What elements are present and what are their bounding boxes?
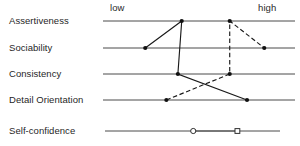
data-point-dashed-detail-orientation	[164, 98, 168, 102]
data-point-dashed-assertiveness	[228, 19, 232, 23]
self-confidence-open-circle-marker	[191, 128, 196, 133]
data-point-solid-consistency	[176, 72, 180, 76]
data-point-dashed-sociability	[262, 46, 266, 50]
data-point-solid-detail-orientation	[245, 98, 249, 102]
self-confidence-open-square-marker	[235, 129, 240, 134]
scale-lines-group	[103, 21, 295, 131]
data-point-solid-sociability	[143, 46, 147, 50]
data-point-solid-assertiveness	[180, 19, 184, 23]
profile-chart: low high Assertiveness Sociability Consi…	[0, 0, 300, 146]
plot-area	[0, 0, 300, 146]
data-point-dashed-consistency	[228, 72, 232, 76]
series-lines-group	[145, 21, 264, 131]
